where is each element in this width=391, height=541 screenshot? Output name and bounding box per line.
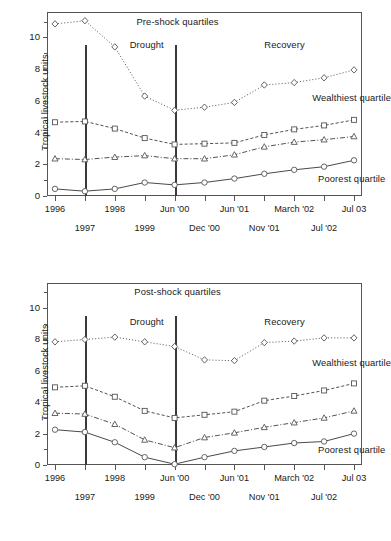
chart-annotation: Wealthiest quartile [312,357,391,368]
data-point-marker [112,394,117,399]
series-layer [0,0,379,271]
chart-annotation: Post-shock quartiles [134,286,220,297]
data-point-marker [232,140,237,145]
chart-annotation: Pre-shock quartiles [137,16,219,27]
data-point-marker [52,21,58,27]
data-point-marker [172,462,177,467]
data-point-marker [232,448,237,453]
chart-annotation: Poorest quartile [318,173,385,184]
data-point-marker [52,186,57,191]
data-point-marker [142,339,148,345]
data-point-marker [142,437,148,442]
data-point-marker [52,427,57,432]
data-point-marker [82,119,87,124]
data-point-marker [322,123,327,128]
data-point-marker [202,454,207,459]
data-point-marker [321,164,326,169]
data-point-marker [232,176,237,181]
data-point-marker [321,75,327,81]
data-point-marker [112,334,118,340]
data-point-marker [352,117,357,122]
data-point-marker [142,136,147,141]
data-point-marker [112,421,118,426]
series-third-quartile [53,381,357,421]
series-poorest-quartile [52,158,356,194]
data-point-marker [172,182,177,187]
data-point-marker [262,171,267,176]
data-point-marker [262,444,267,449]
data-point-marker [291,338,297,344]
chart-annotation: Drought [130,316,164,327]
data-point-marker [322,388,327,393]
data-point-marker [351,335,357,341]
data-point-marker [261,339,267,345]
data-point-marker [172,445,178,450]
data-point-marker [262,398,267,403]
data-point-marker [231,99,237,105]
data-point-marker [82,429,87,434]
data-point-marker [142,93,148,99]
data-point-marker [112,126,117,131]
data-point-marker [321,335,327,341]
data-point-marker [292,127,297,132]
chart-annotation: Recovery [264,39,304,50]
data-point-marker [291,139,297,144]
data-point-marker [292,393,297,398]
data-point-marker [261,144,267,149]
chart-annotation: Recovery [264,316,304,327]
data-point-marker [112,44,118,50]
data-point-marker [351,408,357,413]
data-point-marker [202,357,208,363]
data-point-marker [172,107,178,113]
data-point-marker [112,440,117,445]
data-point-marker [321,137,327,142]
data-point-marker [202,104,208,110]
chart-panel-pre-shock: Tropical livestock units0246810199619971… [0,0,379,270]
data-point-marker [142,152,148,157]
data-point-marker [172,142,177,147]
data-point-marker [82,411,88,416]
data-point-marker [112,186,117,191]
chart-annotation: Poorest quartile [318,444,385,455]
data-point-marker [82,336,88,342]
data-point-marker [231,357,237,363]
chart-annotation: Wealthiest quartile [312,92,391,103]
chart-panel-post-shock: Tropical livestock units0246810199619971… [0,270,379,541]
data-point-marker [352,381,357,386]
data-point-marker [172,343,178,349]
data-point-marker [351,431,356,436]
series-third-quartile [53,117,357,147]
data-point-marker [232,409,237,414]
data-point-marker [53,120,58,125]
chart-annotation: Drought [130,39,164,50]
series-poorest-quartile [52,427,356,467]
series-line [55,21,354,111]
data-point-marker [142,180,147,185]
data-point-marker [82,18,88,24]
series-second-quartile [52,133,357,161]
data-point-marker [202,412,207,417]
data-point-marker [261,82,267,88]
data-point-marker [262,132,267,137]
series-line [55,160,354,191]
data-point-marker [292,440,297,445]
data-point-marker [53,385,58,390]
data-point-marker [202,180,207,185]
data-point-marker [52,339,58,345]
data-point-marker [82,189,87,194]
data-point-marker [351,67,357,73]
data-point-marker [142,408,147,413]
data-point-marker [291,79,297,85]
data-point-marker [351,133,357,138]
data-point-marker [292,167,297,172]
data-point-marker [172,415,177,420]
series-layer [0,270,379,541]
data-point-marker [142,454,147,459]
data-point-marker [351,158,356,163]
data-point-marker [82,383,87,388]
data-point-marker [202,141,207,146]
